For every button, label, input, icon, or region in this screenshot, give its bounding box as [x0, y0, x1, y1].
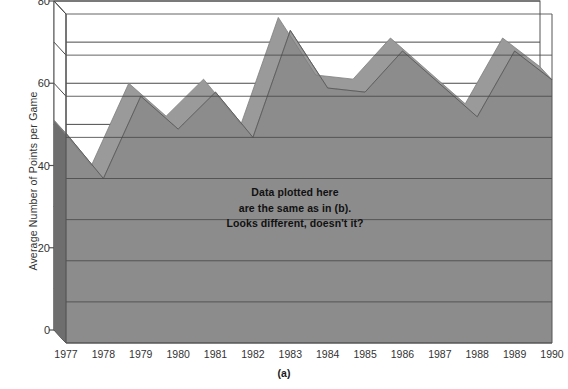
chart-figure: Average Number of Points per Game 020406…	[0, 0, 568, 389]
y-tick-label: 40	[22, 160, 50, 172]
x-tick-label: 1990	[528, 348, 568, 360]
y-axis-ticks: 020406080	[14, 0, 50, 389]
annotation-line: Data plotted here	[150, 185, 440, 201]
figure-caption: (a)	[0, 367, 568, 379]
y-tick-label: 60	[22, 77, 50, 89]
annotation-line: Looks different, doesn't it?	[150, 216, 440, 232]
y-tick-label: 0	[22, 324, 50, 336]
chart-annotation: Data plotted hereare the same as in (b).…	[150, 185, 440, 232]
y-tick-label: 80	[22, 0, 50, 7]
annotation-line: are the same as in (b).	[150, 201, 440, 217]
y-tick-label: 20	[22, 242, 50, 254]
